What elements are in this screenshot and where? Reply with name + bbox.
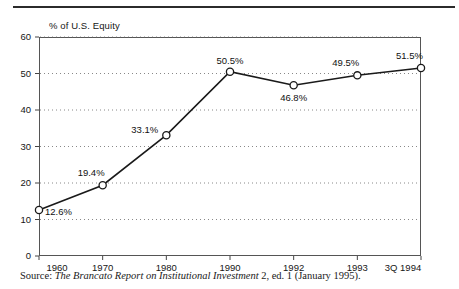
data-point-label: 33.1% <box>131 124 158 135</box>
data-point-marker <box>35 206 42 213</box>
y-tick-label: 30 <box>7 141 31 152</box>
y-tick-label: 0 <box>7 250 31 261</box>
data-line <box>39 68 421 210</box>
data-point-label: 49.5% <box>332 57 359 68</box>
data-point-label: 46.8% <box>280 92 307 103</box>
data-point-marker <box>354 72 361 79</box>
data-point-marker <box>417 64 424 71</box>
y-tick-label: 20 <box>7 177 31 188</box>
y-tick-label: 60 <box>7 31 31 42</box>
data-markers-group <box>35 64 424 213</box>
data-point-marker <box>163 132 170 139</box>
source-rest: 2, ed. 1 (January 1995). <box>261 270 360 281</box>
data-point-label: 19.4% <box>78 167 105 178</box>
source-prefix: Source: <box>20 270 52 281</box>
data-point-label: 51.5% <box>396 50 423 61</box>
data-point-label: 12.6% <box>45 206 72 217</box>
data-point-marker <box>99 182 106 189</box>
y-tick-label: 50 <box>7 68 31 79</box>
chart-canvas <box>0 0 459 289</box>
x-tick-label: 3Q 1994 <box>375 262 431 273</box>
y-tick-label: 10 <box>7 214 31 225</box>
data-point-marker <box>226 68 233 75</box>
data-point-marker <box>290 82 297 89</box>
data-point-label: 50.5% <box>217 55 244 66</box>
figure-container: % of U.S. Equity 0102030405060 196019701… <box>0 0 459 289</box>
y-tick-label: 40 <box>7 104 31 115</box>
source-title: The Brancato Report on Institutional Inv… <box>55 270 259 281</box>
source-note: Source: The Brancato Report on Instituti… <box>20 270 361 281</box>
